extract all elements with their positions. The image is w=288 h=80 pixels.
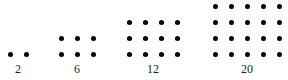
dot — [213, 4, 218, 9]
dot — [245, 4, 250, 9]
dot — [24, 52, 29, 57]
figure-label: 6 — [74, 62, 80, 77]
figure-label: 12 — [147, 62, 159, 77]
dot — [59, 52, 64, 57]
dot — [277, 4, 282, 9]
dot — [127, 20, 132, 25]
dot — [261, 20, 266, 25]
dot — [229, 36, 234, 41]
dot — [245, 36, 250, 41]
dot — [261, 52, 266, 57]
dot — [229, 4, 234, 9]
dot — [143, 52, 148, 57]
dot — [91, 52, 96, 57]
dot — [245, 20, 250, 25]
dot — [8, 52, 13, 57]
dot — [245, 52, 250, 57]
dot — [213, 52, 218, 57]
dot — [143, 20, 148, 25]
dot — [229, 52, 234, 57]
figure-label: 2 — [15, 62, 21, 77]
dot — [75, 52, 80, 57]
dot — [229, 20, 234, 25]
dot — [213, 36, 218, 41]
dot — [75, 36, 80, 41]
dot-array-diagram: 261220 — [0, 0, 288, 80]
dot — [175, 36, 180, 41]
dot — [143, 36, 148, 41]
dot — [261, 36, 266, 41]
dot — [213, 20, 218, 25]
dot — [277, 20, 282, 25]
dot — [159, 36, 164, 41]
dot — [159, 52, 164, 57]
dot — [175, 52, 180, 57]
dot — [91, 36, 96, 41]
dot — [175, 20, 180, 25]
dot — [277, 36, 282, 41]
dot — [159, 20, 164, 25]
dot — [277, 52, 282, 57]
dot — [127, 36, 132, 41]
figure-label: 20 — [241, 62, 253, 77]
dot — [59, 36, 64, 41]
dot — [261, 4, 266, 9]
dot — [127, 52, 132, 57]
